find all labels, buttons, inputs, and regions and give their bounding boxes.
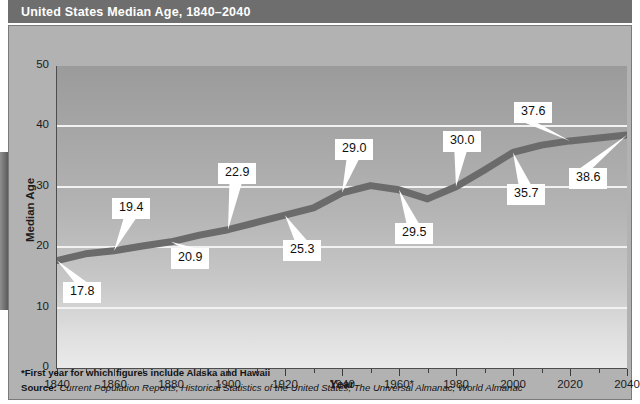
y-tick-label-20: 20 — [19, 239, 49, 251]
data-label-37-6: 37.6 — [514, 102, 552, 123]
x-axis-line — [56, 368, 627, 369]
y-axis-title: Median Age — [24, 140, 36, 280]
data-label-29-5: 29.5 — [395, 223, 433, 244]
data-label-35-7: 35.7 — [507, 184, 545, 205]
chart-title-bar: United States Median Age, 1840–2040 — [8, 0, 632, 23]
x-tick-minor-1930 — [314, 369, 315, 373]
data-label-29-0: 29.0 — [335, 139, 373, 160]
x-tick-minor-2010 — [542, 369, 543, 373]
data-label-30-0: 30.0 — [443, 131, 481, 152]
x-tick-minor-2030 — [599, 369, 600, 373]
x-tick-minor-1970 — [428, 369, 429, 373]
y-tick-label-30: 30 — [19, 179, 49, 191]
data-label-19-4: 19.4 — [112, 198, 150, 219]
y-tick-label-40: 40 — [19, 118, 49, 130]
x-tick-major-2000 — [513, 369, 514, 376]
x-tick-major-1980 — [456, 369, 457, 376]
plot-area: 17.819.420.922.925.329.029.530.035.737.6… — [57, 66, 627, 368]
data-label-17-8: 17.8 — [63, 282, 101, 303]
x-tick-major-1940 — [342, 369, 343, 376]
footnote-source-text: Current Population Reports; Historical S… — [57, 382, 523, 393]
y-axis-line — [56, 66, 57, 369]
page-title: United States Median Age, 1840–2040 — [8, 5, 251, 19]
x-tick-label-2020: 2020 — [557, 378, 583, 390]
x-tick-minor-1950 — [371, 369, 372, 373]
y-tick-label-10: 10 — [19, 300, 49, 312]
x-tick-major-1960 — [399, 369, 400, 376]
x-tick-major-2040 — [627, 369, 628, 376]
y-axis-title-wrap: Median Age — [22, 146, 38, 286]
chart-panel: Median Age 01020304050 17.819.420.922.92… — [8, 25, 632, 400]
x-tick-major-2020 — [570, 369, 571, 376]
data-label-20-9: 20.9 — [171, 248, 209, 269]
x-tick-label-2040: 2040 — [614, 378, 640, 390]
footnote-source: Source: Current Population Reports; Hist… — [21, 382, 523, 393]
x-tick-major-1920 — [285, 369, 286, 376]
footnote-source-prefix: Source: — [21, 382, 57, 393]
data-label-25-3: 25.3 — [283, 240, 321, 261]
data-label-22-9: 22.9 — [218, 163, 256, 184]
y-tick-label-50: 50 — [19, 58, 49, 70]
data-label-38-6: 38.6 — [569, 168, 607, 189]
median-age-chart-figure: United States Median Age, 1840–2040 Medi… — [0, 0, 640, 404]
x-tick-minor-1990 — [485, 369, 486, 373]
